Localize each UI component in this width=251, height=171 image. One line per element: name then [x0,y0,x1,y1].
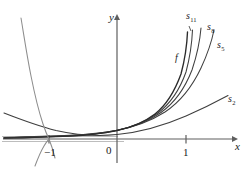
x-tick-label-1: 1 [183,147,189,158]
curve-label-s2-sub: 2 [232,99,235,106]
origin-label: 0 [106,145,112,156]
curve-s5 [4,30,214,137]
curve-label-f: f [175,53,178,63]
x-axis-label: x [235,141,240,152]
curve-label-f-text: f [175,52,178,63]
curve-label-s11-sub: 11 [190,16,196,23]
curve-label-s8-sub: 8 [211,27,214,34]
curve-label-s8: s8 [207,22,214,32]
curve-f [4,32,188,138]
curve-s2 [4,96,228,136]
x-tick-label-minus-1: −1 [44,147,56,158]
curve-label-s5-sub: 5 [221,45,224,52]
curve-label-s11: s11 [186,11,196,21]
y-axis-label: y [109,12,114,23]
curve-label-s5: s5 [217,40,224,50]
leader-s11 [189,26,191,31]
taylor-series-figure: y x 0 −1 1 f s11 s8 s5 s2 [0,0,251,171]
curve-label-s2: s2 [228,94,235,104]
